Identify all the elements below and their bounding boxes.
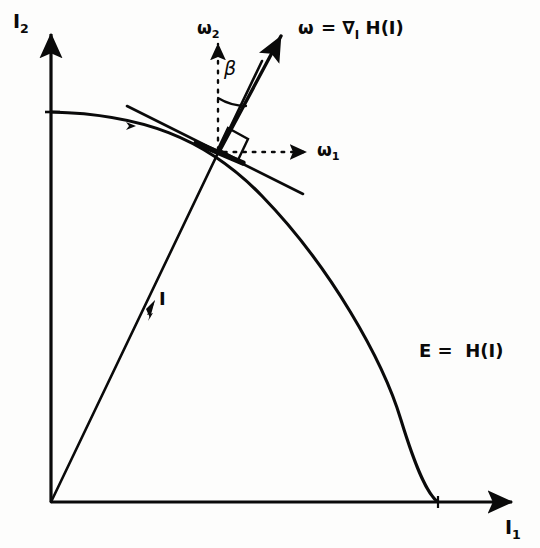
beta-label: β [224,59,236,78]
omega1-label: ω1 [317,142,340,163]
energy-surface-label: E = H(I) [419,342,503,360]
x-axis-label: I1 [505,518,521,541]
energy-surface-curve [51,112,438,502]
diagram-svg [0,0,540,548]
action-vector-label: I [159,290,166,308]
omega-vector-label: ω = ∇I H(I) [298,19,404,41]
omega-vector [219,36,281,152]
omega2-label: ω2 [197,20,220,41]
y-axis-label: I2 [13,12,29,35]
figure-canvas: I2 I1 ω2 β ω = ∇I H(I) ω1 I E = H(I) [0,0,540,548]
